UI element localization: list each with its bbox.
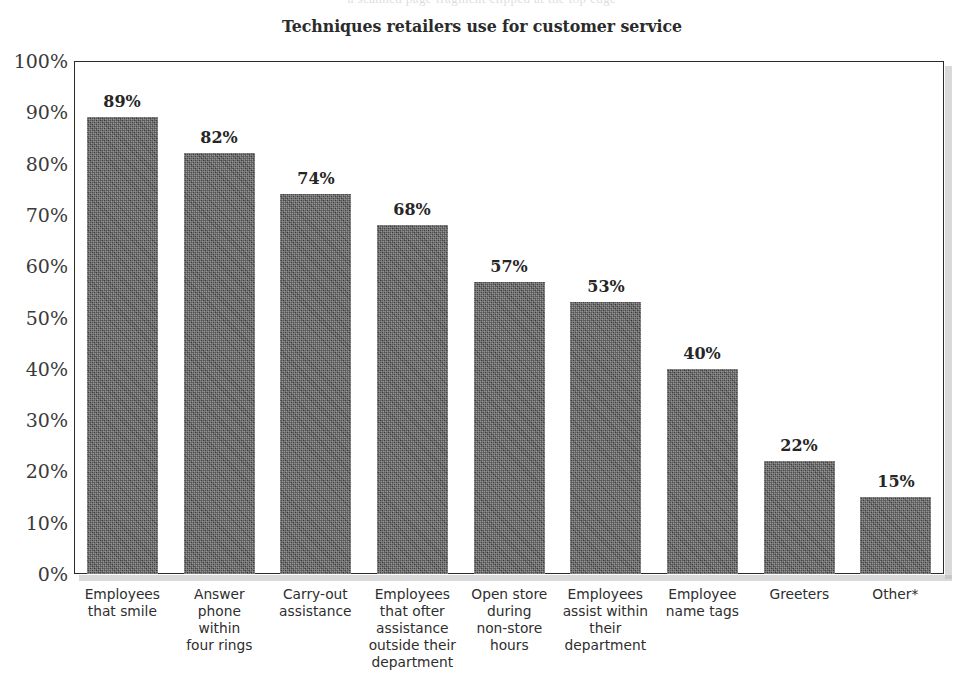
bar — [860, 497, 931, 574]
x-axis-category-label: Employees that ofter assistance outside … — [366, 586, 458, 671]
y-axis-tick-label: 80% — [0, 153, 68, 175]
bar-value-label: 53% — [559, 276, 653, 296]
y-axis-tick-label: 70% — [0, 204, 68, 226]
bar-value-label: 57% — [462, 256, 556, 276]
x-axis-category-label: Employees that smile — [76, 586, 168, 620]
bar — [280, 194, 351, 574]
x-axis-category-label: Answer phone within four rings — [173, 586, 265, 654]
y-axis-tick-label: 50% — [0, 307, 68, 329]
bar — [87, 117, 158, 574]
bar-value-label: 89% — [75, 91, 169, 111]
bar — [764, 461, 835, 574]
x-axis-category-label: Carry-out assistance — [270, 586, 362, 620]
clipped-top-text: a scanned page fragment clipped at the t… — [0, 0, 964, 6]
x-axis-category-label: Employees assist within their department — [560, 586, 652, 654]
x-axis-category-label: Open store during non-store hours — [463, 586, 555, 654]
bar — [667, 369, 738, 574]
plot-frame-shadow-right — [945, 66, 952, 579]
bar-value-label: 15% — [849, 471, 943, 491]
bar — [570, 302, 641, 574]
bar — [184, 153, 255, 574]
y-axis-tick-label: 40% — [0, 358, 68, 380]
x-axis-category-label: Employee name tags — [656, 586, 748, 620]
plot-frame-shadow-bottom — [79, 575, 952, 581]
x-axis-category-label: Other* — [850, 586, 942, 603]
y-axis-tick-label: 10% — [0, 512, 68, 534]
clipped-top-text-content: a scanned page fragment clipped at the t… — [348, 0, 617, 6]
bar — [474, 282, 545, 574]
y-axis-tick-label: 60% — [0, 255, 68, 277]
bar-value-label: 82% — [172, 127, 266, 147]
y-axis-tick-label: 20% — [0, 460, 68, 482]
y-axis-tick-label: 90% — [0, 101, 68, 123]
y-axis-tick-label: 30% — [0, 409, 68, 431]
y-axis-tick-label: 0% — [0, 563, 68, 585]
y-axis-tick-label: 100% — [0, 50, 68, 72]
bar-value-label: 68% — [365, 199, 459, 219]
bar-value-label: 74% — [269, 168, 363, 188]
chart-title: Techniques retailers use for customer se… — [34, 16, 931, 36]
x-axis-category-label: Greeters — [753, 586, 845, 603]
bar — [377, 225, 448, 574]
bar-value-label: 22% — [752, 435, 846, 455]
bar-value-label: 40% — [655, 343, 749, 363]
